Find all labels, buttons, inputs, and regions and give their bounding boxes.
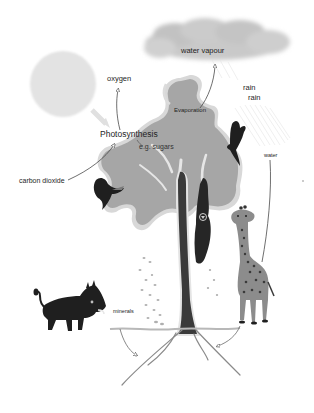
mineral-particles [139,257,219,325]
minerals-to-roots-arrow [120,329,136,355]
label-rain-1: rain [243,84,256,92]
label-water: water [264,153,277,159]
diagram-canvas [0,0,314,413]
label-oxygen: oxygen [107,75,131,83]
label-carbon-dioxide: carbon dioxide [19,177,65,184]
ground-line [110,328,240,330]
sun-icon [30,51,96,117]
dot-marker [302,180,304,182]
warthog-icon [34,280,107,331]
tree-roots [122,330,240,385]
tree-canopy [98,75,243,230]
photosynthesis-to-oxygen-arrow [117,90,120,130]
label-water-vapour: water vapour [181,47,224,55]
label-minerals: minerals [113,309,134,315]
sun-to-photosynthesis-arrow [92,110,110,128]
label-photosynthesis: Photosynthesis [100,130,158,139]
label-rain-2: rain [248,94,261,102]
label-sugars: e.g. sugars [139,143,174,150]
label-evaporation: Evaporation [174,107,206,113]
ecosystem-diagram: oxygen Photosynthesis e.g. sugars carbon… [0,0,314,413]
